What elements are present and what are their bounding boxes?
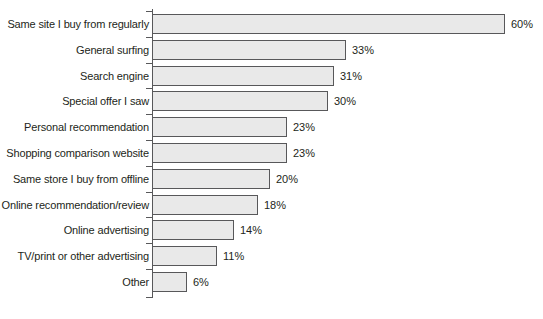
chart-row: Shopping comparison website 23%	[0, 143, 543, 163]
chart-row: Personal recommendation 23%	[0, 117, 543, 137]
bar	[152, 91, 328, 111]
chart-row: TV/print or other advertising 11%	[0, 246, 543, 266]
axis-tick	[146, 88, 152, 89]
chart-row: Special offer I saw 30%	[0, 91, 543, 111]
value-label: 18%	[258, 195, 286, 215]
category-label: Search engine	[80, 66, 149, 86]
bar-chart: Same site I buy from regularly 60% Gener…	[0, 0, 543, 319]
plot-area: Same site I buy from regularly 60% Gener…	[0, 0, 543, 319]
bar	[152, 246, 217, 266]
axis-tick	[146, 114, 152, 115]
value-label: 33%	[346, 40, 374, 60]
category-label: General surfing	[76, 40, 149, 60]
axis-tick	[146, 166, 152, 167]
bar-container: 6%	[152, 272, 187, 292]
value-label: 11%	[217, 246, 244, 266]
bar-container: 18%	[152, 195, 258, 215]
axis-tick	[146, 140, 152, 141]
category-label: Shopping comparison website	[6, 143, 149, 163]
value-label: 23%	[287, 117, 315, 137]
category-label: Other	[122, 272, 149, 292]
value-label: 30%	[328, 91, 356, 111]
bar-container: 60%	[152, 14, 505, 34]
value-label: 20%	[270, 169, 298, 189]
axis-tick	[146, 243, 152, 244]
bar-container: 31%	[152, 66, 334, 86]
bar	[152, 272, 187, 292]
bar-container: 23%	[152, 143, 287, 163]
bar-container: 14%	[152, 220, 234, 240]
chart-row: General surfing 33%	[0, 40, 543, 60]
chart-row: Same store I buy from offline 20%	[0, 169, 543, 189]
axis-tick	[146, 269, 152, 270]
category-label: Same store I buy from offline	[13, 169, 149, 189]
axis-tick	[146, 192, 152, 193]
axis-tick-end	[146, 297, 152, 298]
chart-row: Online recommendation/review 18%	[0, 195, 543, 215]
bar	[152, 169, 270, 189]
category-label: Online recommendation/review	[2, 195, 149, 215]
value-label: 14%	[234, 220, 262, 240]
category-label: TV/print or other advertising	[18, 246, 149, 266]
chart-row: Other 6%	[0, 272, 543, 292]
category-label: Special offer I saw	[62, 91, 149, 111]
chart-row: Online advertising 14%	[0, 220, 543, 240]
bar	[152, 14, 505, 34]
bar-container: 33%	[152, 40, 346, 60]
value-label: 23%	[287, 143, 315, 163]
bar	[152, 40, 346, 60]
bar-rows: Same site I buy from regularly 60% Gener…	[0, 14, 543, 298]
chart-row: Search engine 31%	[0, 66, 543, 86]
bar-container: 30%	[152, 91, 328, 111]
axis-tick	[146, 11, 152, 12]
value-label: 60%	[505, 14, 533, 34]
value-label: 6%	[187, 272, 209, 292]
axis-tick	[146, 37, 152, 38]
bar-container: 23%	[152, 117, 287, 137]
bar	[152, 117, 287, 137]
bar	[152, 143, 287, 163]
axis-tick	[146, 217, 152, 218]
bar-container: 20%	[152, 169, 270, 189]
category-label: Online advertising	[64, 220, 149, 240]
category-label: Same site I buy from regularly	[7, 14, 149, 34]
value-label: 31%	[334, 66, 362, 86]
axis-tick	[146, 63, 152, 64]
bar	[152, 66, 334, 86]
bar-container: 11%	[152, 246, 217, 266]
category-label: Personal recommendation	[24, 117, 149, 137]
chart-row: Same site I buy from regularly 60%	[0, 14, 543, 34]
bar	[152, 195, 258, 215]
bar	[152, 220, 234, 240]
